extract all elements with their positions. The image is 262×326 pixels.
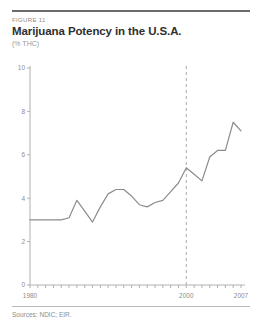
figure-container: FIGURE 11 Marijuana Potency in the U.S.A…: [0, 0, 262, 326]
source-note: Sources: NDIC; EIR.: [12, 311, 72, 318]
data-line-series-0: [30, 122, 241, 222]
chart-plot-area: 0246810198020002007: [0, 0, 262, 326]
y-axis-tick-label: 4: [21, 195, 25, 202]
y-axis-tick-label: 0: [21, 281, 25, 288]
x-axis-tick-label: 1980: [23, 292, 38, 299]
y-axis-tick-label: 10: [18, 64, 26, 71]
x-axis-tick-label: 2007: [234, 292, 249, 299]
y-axis-tick-label: 8: [21, 108, 25, 115]
y-axis-tick-label: 2: [21, 238, 25, 245]
y-axis-tick-label: 6: [21, 151, 25, 158]
bottom-divider-rule: [12, 306, 250, 307]
x-axis-tick-label: 2000: [179, 292, 194, 299]
